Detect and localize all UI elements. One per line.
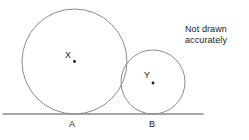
note-line-2: accurately bbox=[185, 35, 247, 46]
point-a-label: A bbox=[69, 119, 75, 129]
center-dot-x bbox=[73, 60, 76, 63]
point-b-label: B bbox=[149, 119, 155, 129]
circle-y-label: Y bbox=[144, 70, 150, 80]
center-dot-y bbox=[152, 82, 155, 85]
geometry-figure: X Y A B Not drawn accurately bbox=[0, 0, 249, 140]
circle-x-label: X bbox=[65, 50, 71, 60]
geometry-canvas bbox=[0, 0, 249, 140]
not-drawn-accurately-note: Not drawn accurately bbox=[185, 24, 247, 46]
note-line-1: Not drawn bbox=[185, 24, 247, 35]
